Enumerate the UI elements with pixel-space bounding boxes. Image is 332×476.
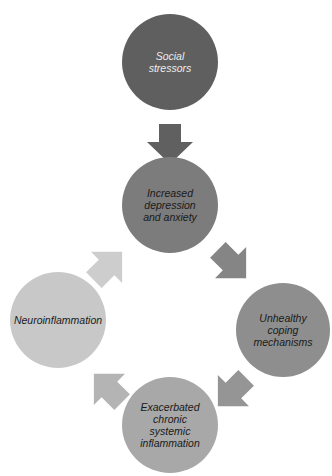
node-label-unhealthy-coping: Unhealthy coping mechanisms [236,283,330,377]
node-label-depression-anxiety: Increased depression and anxiety [122,157,218,253]
label-line: Neuroinflammation [14,314,102,326]
label-line: chronic [140,413,200,425]
label-line: inflammation [140,437,200,449]
label-line: and anxiety [143,211,197,223]
node-label-social-stressors: Social stressors [122,14,218,110]
label-line: systemic [140,425,200,437]
label-line: Exacerbated [140,401,200,413]
node-label-neuroinflammation: Neuroinflammation [10,272,106,368]
label-line: Increased [143,187,197,199]
label-line: Social [149,50,192,62]
label-line: depression [143,199,197,211]
label-line: coping [254,324,313,336]
node-label-systemic-inflammation: Exacerbated chronic systemic inflammatio… [122,377,218,473]
label-line: Unhealthy [254,312,313,324]
label-line: stressors [149,62,192,74]
label-line: mechanisms [254,336,313,348]
